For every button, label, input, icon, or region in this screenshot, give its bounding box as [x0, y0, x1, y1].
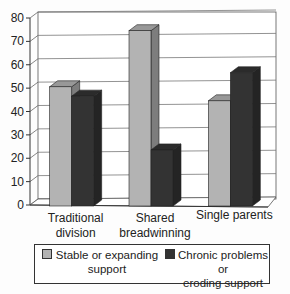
legend-label-line1: Stable or expanding — [53, 248, 161, 262]
x-category-label: Traditional — [48, 211, 104, 225]
y-tick-label: 0 — [17, 198, 24, 212]
y-tick-label: 40 — [11, 105, 25, 119]
y-tick-label: 80 — [11, 11, 25, 25]
bar-chart: 01020304050607080TraditionaldivisionShar… — [0, 0, 290, 240]
bar — [151, 150, 173, 206]
x-category-label: Shared — [136, 211, 175, 225]
legend-swatch-stable — [42, 249, 52, 259]
x-category-label: division — [56, 226, 96, 240]
y-tick-label: 30 — [11, 128, 25, 142]
y-tick-label: 70 — [11, 34, 25, 48]
x-category-label: Single parents — [196, 208, 273, 222]
legend-label-line2: eroding support — [173, 276, 273, 290]
bar — [208, 101, 230, 206]
y-tick-label: 20 — [11, 151, 25, 165]
chart-legend: Stable or expanding support Chronic prob… — [34, 244, 270, 284]
y-tick-label: 10 — [11, 175, 25, 189]
bar — [72, 96, 94, 206]
y-tick-label: 50 — [11, 81, 25, 95]
bar — [230, 73, 252, 206]
bar — [129, 31, 151, 206]
legend-label-line1: Chronic problems or — [173, 248, 273, 276]
bar — [50, 87, 72, 206]
legend-item-chronic: Chronic problems or eroding support — [173, 248, 273, 290]
legend-label-line2: support — [53, 262, 161, 276]
y-tick-label: 60 — [11, 58, 25, 72]
legend-item-stable: Stable or expanding support — [53, 248, 161, 276]
x-category-label: breadwinning — [119, 226, 190, 240]
